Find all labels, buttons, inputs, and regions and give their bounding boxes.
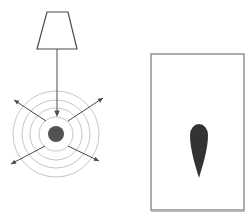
diagram-figure xyxy=(0,0,249,222)
radial-arrowhead-icon xyxy=(98,98,103,103)
diagram-canvas xyxy=(0,0,249,222)
beam-arrowhead-icon xyxy=(54,111,60,118)
lamp-shade xyxy=(37,12,77,49)
diagram-svg xyxy=(0,0,249,222)
radial-arrowhead-icon xyxy=(14,100,19,105)
point-source-dot xyxy=(48,126,64,142)
